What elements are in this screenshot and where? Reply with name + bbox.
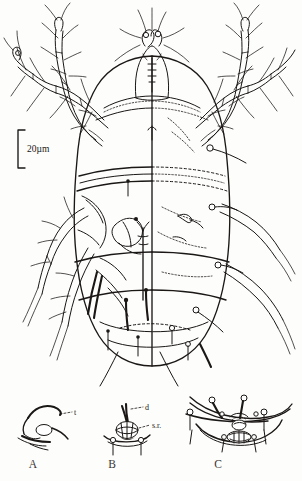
leg-3-right xyxy=(209,204,295,281)
panel-b: d s.r. B xyxy=(104,403,161,470)
gnathosoma xyxy=(115,8,189,100)
panel-a-letter: A xyxy=(29,458,38,470)
panel-c: C xyxy=(186,395,292,470)
leg-2-left xyxy=(41,3,103,146)
panel-b-label-sr: s.r. xyxy=(152,421,161,430)
panel-c-letter: C xyxy=(214,458,222,470)
ventral-internal-detail xyxy=(78,196,149,316)
panel-b-letter: B xyxy=(108,458,116,470)
idiosoma-outline xyxy=(74,56,230,366)
panel-a-label-t: t xyxy=(74,408,77,417)
leg-1-right xyxy=(196,48,295,134)
posterior-setae xyxy=(100,344,211,386)
leg-1-left xyxy=(4,31,108,134)
leg-4-right xyxy=(215,262,295,354)
scale-bar-label: 20µm xyxy=(27,144,50,154)
figure-plate: 20µm xyxy=(0,0,302,481)
scale-bar: 20µm xyxy=(18,130,50,168)
illustration-canvas: 20µm xyxy=(0,0,302,481)
panel-b-label-d: d xyxy=(145,403,149,412)
leg-4-left xyxy=(49,248,102,360)
leg-2-right xyxy=(201,3,263,146)
panel-a: t A xyxy=(18,406,77,470)
